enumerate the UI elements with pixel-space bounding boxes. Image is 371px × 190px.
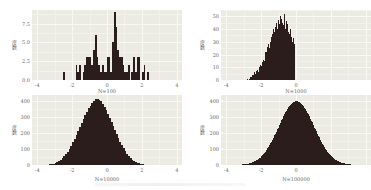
grid-line [32, 24, 182, 25]
plot-area [221, 10, 371, 80]
y-tick-label: 200 [205, 130, 219, 136]
grid-line [221, 16, 371, 17]
grid-line [226, 10, 227, 80]
grid-line [348, 95, 349, 165]
grid-line [32, 101, 182, 102]
histogram-bar [63, 72, 65, 80]
grid-line [221, 67, 371, 68]
x-tick-label: -2 [67, 82, 77, 88]
y-tick-label: 50 [205, 13, 219, 19]
x-tick-label: 4 [172, 167, 182, 173]
histogram-bar [144, 65, 146, 80]
x-tick-label: 0 [102, 167, 112, 173]
grid-line [32, 14, 182, 15]
x-axis-label: N=1000 [266, 88, 326, 94]
grid-line [221, 74, 371, 75]
y-tick-label: 0 [205, 77, 219, 83]
grid-line [331, 95, 332, 165]
y-tick-label: 5.0 [16, 39, 30, 45]
grid-line [32, 52, 182, 53]
grid-line [55, 95, 56, 165]
y-axis-label: 度数 [200, 125, 206, 135]
grid-line [37, 10, 38, 80]
grid-line [221, 61, 371, 62]
y-tick-label: 2.5 [16, 58, 30, 64]
x-tick-label: 4 [172, 82, 182, 88]
grid-line [221, 10, 371, 11]
grid-line [32, 33, 182, 34]
y-tick-label: 0 [16, 162, 30, 168]
grid-line [313, 10, 314, 80]
y-tick-label: 30 [205, 39, 219, 45]
grid-line [348, 10, 349, 80]
grid-line [37, 95, 38, 165]
histogram-bar [147, 72, 149, 80]
x-axis-label: N=100000 [266, 176, 326, 182]
histogram-bar [138, 57, 140, 80]
figure-caption [95, 183, 245, 186]
y-tick-label: 100 [205, 146, 219, 152]
grid-line [159, 10, 160, 80]
y-tick-label: 300 [205, 114, 219, 120]
plot-area [32, 95, 182, 165]
grid-line [221, 42, 371, 43]
grid-line [366, 10, 367, 80]
grid-line [226, 95, 227, 165]
y-tick-label: 20 [205, 52, 219, 58]
y-tick-label: 100 [16, 146, 30, 152]
grid-line [221, 48, 371, 49]
grid-line [72, 10, 73, 80]
y-tick-label: 400 [16, 98, 30, 104]
x-axis-label: N=10000 [77, 176, 137, 182]
histogram-bar [79, 65, 81, 80]
histogram-bar [294, 47, 295, 80]
grid-line [159, 95, 160, 165]
grid-line [142, 95, 143, 165]
y-tick-label: 10 [205, 64, 219, 70]
y-tick-label: 300 [16, 114, 30, 120]
y-tick-label: 0 [205, 162, 219, 168]
x-tick-label: -4 [221, 82, 231, 88]
y-tick-label: 200 [16, 130, 30, 136]
plot-area [221, 95, 371, 165]
x-tick-label: -2 [256, 167, 266, 173]
grid-line [221, 29, 371, 30]
grid-line [221, 35, 371, 36]
x-tick-label: 0 [291, 167, 301, 173]
grid-line [221, 55, 371, 56]
grid-line [244, 10, 245, 80]
grid-line [366, 95, 367, 165]
x-tick-label: 2 [137, 82, 147, 88]
grid-line [331, 10, 332, 80]
y-tick-label: 0.0 [16, 77, 30, 83]
y-tick-label: 7.5 [16, 21, 30, 27]
plot-area [32, 10, 182, 80]
grid-line [55, 10, 56, 80]
x-tick-label: 2 [137, 167, 147, 173]
grid-line [244, 95, 245, 165]
x-axis-label: N=100 [77, 88, 137, 94]
y-axis-label: 度数 [12, 40, 18, 50]
x-tick-label: -4 [221, 167, 231, 173]
grid-line [32, 42, 182, 43]
grid-line [177, 10, 178, 80]
y-axis-label: 度数 [200, 40, 206, 50]
grid-line [177, 95, 178, 165]
x-tick-label: -4 [32, 82, 42, 88]
x-tick-label: -2 [256, 82, 266, 88]
grid-line [124, 10, 125, 80]
x-tick-label: -4 [32, 167, 42, 173]
grid-line [296, 10, 297, 80]
histogram-bar [128, 65, 130, 80]
y-tick-label: 400 [205, 98, 219, 104]
y-tick-label: 40 [205, 26, 219, 32]
y-axis-label: 度数 [12, 125, 18, 135]
x-tick-label: -2 [67, 167, 77, 173]
grid-line [221, 23, 371, 24]
